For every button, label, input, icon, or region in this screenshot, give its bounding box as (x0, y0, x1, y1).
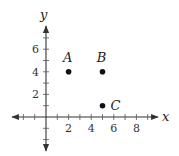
x-tick-label: 8 (133, 122, 140, 135)
data-points: ABC (62, 50, 121, 113)
x-tick-label: 4 (88, 122, 95, 135)
y-tick-labels: 246 (32, 43, 39, 101)
x-tick-labels: 2468 (65, 122, 140, 135)
coordinate-plane: 2468 246 x y ABC (0, 0, 179, 156)
point-marker (100, 103, 106, 109)
point-label: B (96, 50, 107, 65)
point-marker (66, 69, 72, 75)
x-axis-label: x (162, 109, 170, 124)
y-axis-label: y (39, 7, 48, 22)
point-C: C (100, 98, 121, 113)
x-tick-label: 2 (65, 122, 72, 135)
point-marker (100, 69, 106, 75)
point-A: A (62, 50, 72, 75)
point-label: C (111, 98, 121, 113)
x-tick-label: 6 (110, 122, 117, 135)
y-tick-label: 2 (32, 88, 39, 101)
point-label: A (62, 50, 72, 65)
y-tick-label: 6 (32, 43, 39, 56)
y-tick-label: 4 (32, 66, 39, 79)
point-B: B (96, 50, 107, 75)
